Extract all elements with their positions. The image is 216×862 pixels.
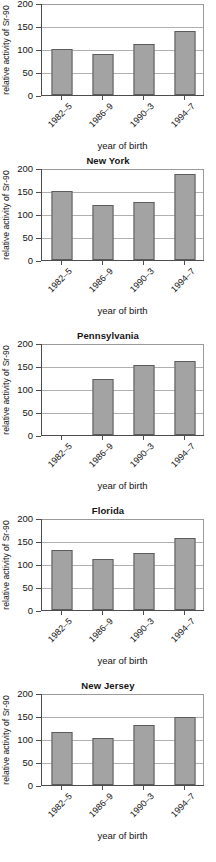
x-axis-tick-label: 1982–5 xyxy=(35,791,75,831)
bar xyxy=(52,191,73,260)
bar-slot xyxy=(124,519,165,610)
bar xyxy=(52,550,73,610)
x-axis-tick-label: 1982–5 xyxy=(35,101,75,141)
y-axis-tick-label: 50 xyxy=(0,68,33,78)
x-axis-tick xyxy=(102,611,103,615)
x-axis-title: year of birth xyxy=(41,305,204,317)
x-axis-tick-label: 1986–9 xyxy=(76,266,116,306)
x-axis-tick-label: 1986–9 xyxy=(76,441,116,481)
y-axis-tick-label: 150 xyxy=(0,362,33,372)
y-axis-tick-label: 50 xyxy=(0,233,33,243)
y-axis-tick-label: 0 xyxy=(0,781,33,791)
bar-slot xyxy=(83,169,124,260)
x-axis-tick-label: 1994–7 xyxy=(157,616,197,656)
bar-series xyxy=(42,519,204,610)
y-axis-tick-label: 200 xyxy=(0,689,33,699)
y-axis-tick-label: 0 xyxy=(0,431,33,441)
x-axis-tick xyxy=(102,96,103,100)
bar-slot xyxy=(83,694,124,785)
bar-slot xyxy=(164,519,205,610)
x-axis-tick-label: 1982–5 xyxy=(35,616,75,656)
x-axis-tick xyxy=(143,96,144,100)
bar-slot xyxy=(83,344,124,435)
x-axis-title: year of birth xyxy=(41,140,204,152)
bar xyxy=(52,49,73,95)
x-axis-tick xyxy=(102,786,103,790)
x-axis-tick xyxy=(184,611,185,615)
plot-box xyxy=(41,694,204,786)
x-axis-tick-label: 1990–3 xyxy=(116,616,156,656)
plot-area: relative activity of Sr-9005010015020019… xyxy=(0,4,216,104)
bar xyxy=(174,174,195,260)
x-axis-tick xyxy=(184,786,185,790)
plot-area: relative activity of Sr-9005010015020019… xyxy=(0,519,216,619)
x-axis-tick xyxy=(102,261,103,265)
bar xyxy=(93,54,114,95)
bar xyxy=(174,361,195,435)
y-axis-tick xyxy=(36,261,41,262)
y-axis-tick-label: 100 xyxy=(0,210,33,220)
x-axis-tick-labels: 1982–51986–91990–31994–7 xyxy=(41,616,204,656)
plot-box xyxy=(41,519,204,611)
bar xyxy=(133,365,154,435)
bar-slot xyxy=(164,169,205,260)
bar xyxy=(133,725,154,785)
x-axis-tick xyxy=(143,436,144,440)
x-axis-title: year of birth xyxy=(41,655,204,667)
x-axis-title: year of birth xyxy=(41,480,204,492)
y-axis-tick-label: 100 xyxy=(0,45,33,55)
plot-box xyxy=(41,344,204,436)
x-axis-tick xyxy=(184,436,185,440)
y-axis-tick-label: 200 xyxy=(0,0,33,9)
x-axis-tick-label: 1994–7 xyxy=(157,441,197,481)
bar xyxy=(52,732,73,785)
bar xyxy=(174,31,195,95)
x-axis-tick-label: 1986–9 xyxy=(76,101,116,141)
bar-slot xyxy=(124,694,165,785)
x-axis-tick xyxy=(143,611,144,615)
x-axis-tick xyxy=(61,786,62,790)
bar xyxy=(174,538,195,610)
bar xyxy=(93,379,114,435)
bar-slot xyxy=(164,4,205,95)
y-axis-tick xyxy=(36,96,41,97)
bar xyxy=(133,202,154,260)
x-axis-tick-label: 1986–9 xyxy=(76,791,116,831)
bar-slot xyxy=(42,4,83,95)
x-axis-tick xyxy=(102,436,103,440)
x-axis-tick xyxy=(61,261,62,265)
bar-series xyxy=(42,694,204,785)
plot-area: relative activity of Sr-9005010015020019… xyxy=(0,694,216,794)
x-axis-tick xyxy=(61,436,62,440)
bar-series xyxy=(42,344,204,435)
y-axis-tick-label: 0 xyxy=(0,256,33,266)
y-axis-tick-label: 0 xyxy=(0,606,33,616)
y-axis-tick xyxy=(36,611,41,612)
x-axis-tick-label: 1982–5 xyxy=(35,441,75,481)
chart-stack: relative activity of Sr-9005010015020019… xyxy=(0,0,216,855)
bar-series xyxy=(42,169,204,260)
chart-panel: New Jerseyrelative activity of Sr-900501… xyxy=(0,680,216,855)
plot-area: relative activity of Sr-9005010015020019… xyxy=(0,169,216,269)
bar xyxy=(133,553,154,611)
y-axis-tick-label: 50 xyxy=(0,583,33,593)
y-axis-tick-label: 100 xyxy=(0,560,33,570)
x-axis-tick-labels: 1982–51986–91990–31994–7 xyxy=(41,791,204,831)
y-axis-tick-label: 100 xyxy=(0,385,33,395)
x-axis-tick-label: 1990–3 xyxy=(116,101,156,141)
x-axis-tick-label: 1990–3 xyxy=(116,791,156,831)
x-axis-tick-label: 1990–3 xyxy=(116,266,156,306)
bar-slot xyxy=(164,694,205,785)
bar-slot xyxy=(42,344,83,435)
chart-panel: Floridarelative activity of Sr-900501001… xyxy=(0,505,216,680)
y-axis-tick-label: 100 xyxy=(0,735,33,745)
bar-slot xyxy=(164,344,205,435)
x-axis-title: year of birth xyxy=(41,830,204,842)
plot-box xyxy=(41,169,204,261)
bar-series xyxy=(42,4,204,95)
x-axis-tick xyxy=(184,96,185,100)
x-axis-tick-label: 1994–7 xyxy=(157,266,197,306)
bar xyxy=(93,559,114,610)
bar-slot xyxy=(124,4,165,95)
x-axis-tick-labels: 1982–51986–91990–31994–7 xyxy=(41,101,204,141)
